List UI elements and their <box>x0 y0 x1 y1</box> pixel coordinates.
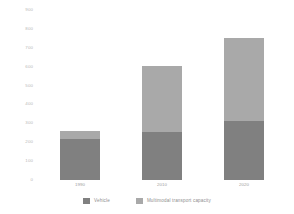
y-axis-tick-label: 800 <box>25 27 33 31</box>
chart-legend: Vehicle Multimodal transport capacity <box>0 198 294 204</box>
x-axis-tick-label: 1990 <box>75 183 85 187</box>
legend-item-label: Vehicle <box>94 199 110 204</box>
y-axis-tick-label: 900 <box>25 8 33 12</box>
bar-segment-vehicle[interactable] <box>60 139 100 180</box>
y-axis-tick-label: 600 <box>25 64 33 68</box>
bar-stack[interactable] <box>142 66 182 180</box>
y-axis-tick-label: 100 <box>25 159 33 163</box>
y-axis-tick-label: 700 <box>25 46 33 50</box>
bar-series: 1990 2010 2020 <box>38 10 286 180</box>
legend-item-vehicle[interactable]: Vehicle <box>83 198 110 204</box>
plot-area: 900 800 700 600 500 400 300 200 100 0 19… <box>38 10 286 180</box>
bar-segment-vehicle[interactable] <box>224 121 264 180</box>
bar-stack[interactable] <box>60 131 100 180</box>
bar-segment-multimodal[interactable] <box>224 38 264 121</box>
y-axis-tick-label: 500 <box>25 83 33 87</box>
stacked-bar-chart: 900 800 700 600 500 400 300 200 100 0 19… <box>0 0 294 214</box>
y-axis-tick-label: 200 <box>25 140 33 144</box>
bar-segment-multimodal[interactable] <box>60 131 100 140</box>
legend-item-label: Multimodal transport capacity <box>147 199 211 204</box>
legend-item-multimodal[interactable]: Multimodal transport capacity <box>136 198 211 204</box>
y-axis-tick-label: 300 <box>25 121 33 125</box>
bar-segment-vehicle[interactable] <box>142 132 182 180</box>
legend-swatch-icon <box>136 198 143 204</box>
x-axis-tick-label: 2010 <box>157 183 167 187</box>
legend-swatch-icon <box>83 198 90 204</box>
y-axis-tick-label: 0 <box>30 178 33 182</box>
y-axis-tick-label: 400 <box>25 102 33 106</box>
x-axis-tick-label: 2020 <box>239 183 249 187</box>
bar-stack[interactable] <box>224 38 264 180</box>
bar-segment-multimodal[interactable] <box>142 66 182 132</box>
